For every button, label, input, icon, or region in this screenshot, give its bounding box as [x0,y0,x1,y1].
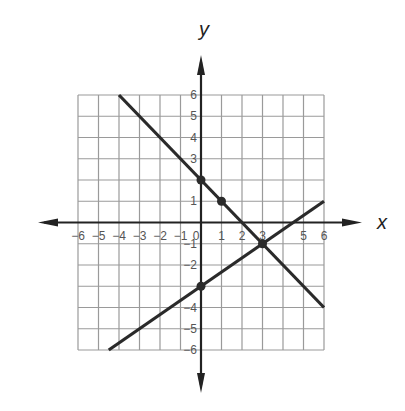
line-1-point [217,197,226,206]
marked-points [197,176,268,291]
x-axis-right-arrow-icon [342,219,362,227]
y-tick-label: −6 [183,343,197,357]
x-tick-label: 2 [239,229,246,243]
coordinate-plane: −6−5−4−3−2−101235665431−1−2−4−5−6 x y [0,0,405,411]
x-tick-label: −4 [112,229,126,243]
y-tick-label: 4 [190,131,197,145]
line-2-point [258,239,267,248]
x-tick-label: −2 [153,229,167,243]
line-1-point [197,176,206,185]
x-tick-label: −5 [92,229,106,243]
x-axis-label: x [376,211,388,233]
y-axis-label: y [197,18,210,40]
y-tick-label: 6 [190,88,197,102]
y-axis-down-arrow-icon [197,373,205,393]
y-tick-label: −4 [183,301,197,315]
x-tick-label: −6 [71,229,85,243]
y-tick-label: −5 [183,322,197,336]
line-2-point [197,282,206,291]
y-tick-label: −1 [183,237,197,251]
x-tick-label: 5 [300,229,307,243]
y-tick-label: 1 [190,194,197,208]
x-tick-label: 6 [321,229,328,243]
x-tick-label: 1 [218,229,225,243]
y-tick-label: −2 [183,258,197,272]
axes [38,55,362,393]
y-axis-up-arrow-icon [197,55,205,75]
x-axis-left-arrow-icon [38,219,58,227]
y-tick-label: 3 [190,152,197,166]
y-tick-label: 5 [190,109,197,123]
x-tick-label: −3 [133,229,147,243]
